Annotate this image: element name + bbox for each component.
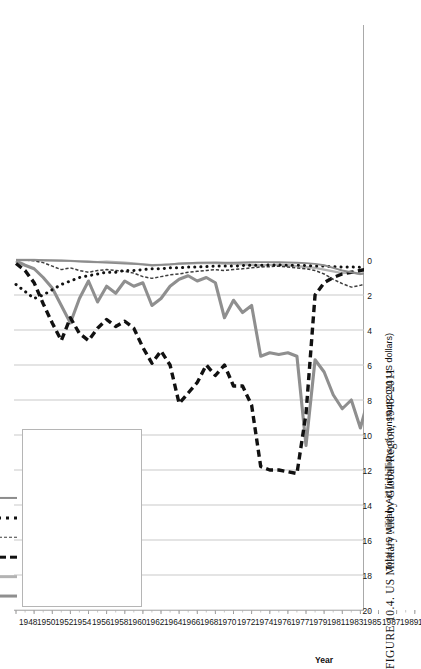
y-tick-label: 2	[346, 291, 372, 301]
legend-swatch	[0, 532, 17, 542]
legend-swatch-solid	[0, 575, 17, 577]
x-tick-label: 1981	[327, 617, 345, 627]
x-tick-label: 1970	[218, 617, 236, 627]
x-tick-label: 1950	[37, 617, 55, 627]
y-tick-label: 8	[346, 396, 372, 406]
x-tick-label: 1952	[55, 617, 73, 627]
chart-legend: All MENA Countries Africa East Asia and …	[22, 429, 142, 607]
x-tick-label: 1956	[92, 617, 110, 627]
y-tick-label: 0	[346, 256, 372, 266]
legend-item[interactable]: South Asia—Afghanistan	[0, 488, 23, 508]
y-tick-label: 18	[346, 571, 372, 581]
legend-swatch	[0, 591, 17, 601]
legend-swatch-dashed	[0, 537, 17, 539]
y-axis-title: Total US Military Aid (in billions of co…	[384, 333, 394, 571]
x-tick-label: 1966	[182, 617, 200, 627]
x-tick-label: 1964	[164, 617, 182, 627]
legend-item[interactable]: Europe and Central Asia	[0, 508, 23, 528]
x-tick-label: 1987	[382, 617, 400, 627]
x-tick-label: 1972	[237, 617, 255, 627]
legend-items: All MENA Countries Africa East Asia and …	[0, 428, 23, 606]
x-tick-label: 1974	[255, 617, 273, 627]
figure-page: FIGURE 10.4. US Military Aid by Global R…	[0, 0, 421, 669]
x-axis-title: Year	[315, 655, 333, 665]
x-tick-label: 1977	[291, 617, 309, 627]
x-tick-label: 1948	[19, 617, 37, 627]
y-tick-label: 20	[346, 606, 372, 616]
x-tick-label: 1976	[273, 617, 291, 627]
y-tick-label: 16	[346, 536, 372, 546]
legend-item[interactable]: East Asia and Pacific	[0, 547, 23, 567]
x-tick-label: 1954	[73, 617, 91, 627]
legend-swatch	[0, 572, 17, 582]
legend-swatch-dashed	[0, 555, 17, 558]
x-tick-label: 1968	[200, 617, 218, 627]
legend-swatch-dotted	[0, 516, 17, 519]
legend-swatch	[0, 552, 17, 562]
y-tick-label: 10	[346, 431, 372, 441]
legend-swatch-solid	[0, 497, 17, 499]
legend-item[interactable]: Africa	[0, 567, 23, 587]
legend-item[interactable]: All MENA Countries	[0, 586, 23, 606]
legend-swatch	[0, 513, 17, 523]
x-tick-label: 1958	[110, 617, 128, 627]
y-tick-label: 6	[346, 361, 372, 371]
figure-label: FIGURE 10.4.	[384, 597, 396, 669]
x-tick-label: 1983	[345, 617, 363, 627]
y-tick-label: 14	[346, 501, 372, 511]
x-tick-label: 1989	[400, 617, 418, 627]
x-tick-label: 1985	[363, 617, 381, 627]
legend-swatch	[0, 493, 17, 503]
y-tick-label: 4	[346, 326, 372, 336]
x-tick-label: 1979	[309, 617, 327, 627]
y-tick-label: 12	[346, 466, 372, 476]
x-tick-label: 1962	[146, 617, 164, 627]
x-tick-label: 1960	[128, 617, 146, 627]
legend-item[interactable]: Latin America	[0, 528, 23, 548]
legend-swatch-solid	[0, 595, 17, 598]
